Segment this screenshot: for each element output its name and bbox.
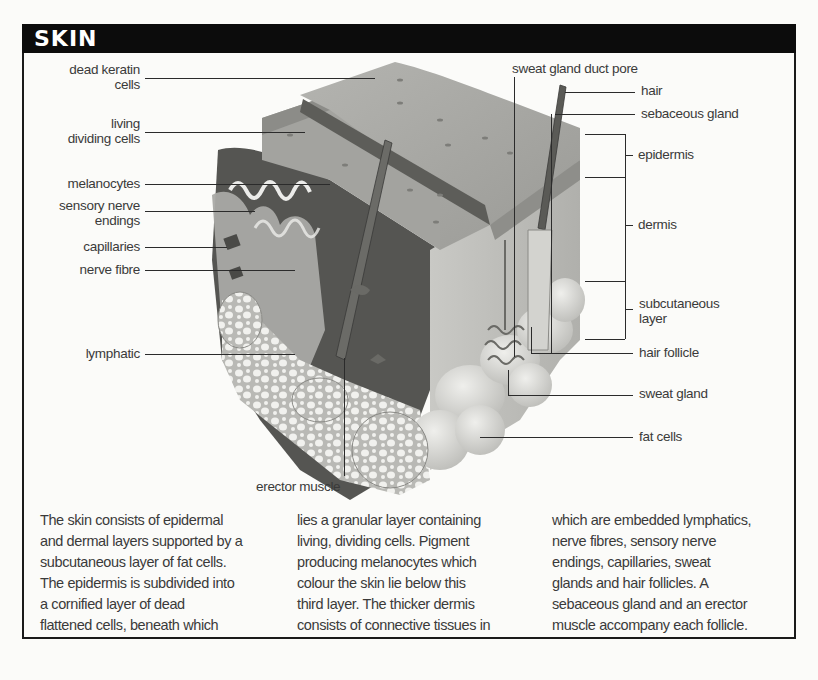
leader-line-sweat-gland-vertical [508,370,509,395]
leader-line-sweat-gland-duct-pore [514,77,515,357]
label-melanocytes: melanocytes [40,176,140,191]
leader-line-sensory-nerve-endings [145,211,255,212]
leader-line-fat-cells [480,437,633,438]
label-sweat-gland-duct-pore: sweat gland duct pore [512,61,638,76]
leader-line-erector-muscle [344,358,345,476]
label-lymphatic: lymphatic [40,346,140,361]
label-capillaries: capillaries [40,239,140,254]
bracket-subcutaneous-bottom [585,339,625,340]
leader-line-melanocytes [145,184,330,185]
label-fat-cells: fat cells [639,429,682,444]
leader-line-sebaceous-gland-vertical [551,114,552,354]
bracket-epidermis-top [585,134,625,135]
bracket-subcutaneous-spine [625,281,626,339]
label-dead-keratin-cells: dead keratin cells [40,62,140,92]
leader-line-hair-follicle-vertical [531,327,532,353]
leader-line-nerve-fibre [145,270,295,271]
leader-line-hair-follicle [531,353,633,354]
label-sensory-nerve-endings: sensory nerve endings [40,198,140,228]
bracket-dermis-tick [625,225,633,226]
label-subcutaneous-layer: subcutaneous layer [639,296,719,326]
leader-line-living-dividing-cells [145,132,305,133]
label-nerve-fibre: nerve fibre [40,262,140,277]
label-sweat-gland: sweat gland [639,386,708,401]
bracket-right-spine [625,134,626,289]
bracket-epidermis-tick [625,155,633,156]
label-dermis: dermis [638,217,677,232]
body-text-column-1: The skin consists of epidermal and derma… [40,510,280,636]
bracket-subcutaneous-tick [625,309,633,310]
leader-line-sebaceous-gland [555,114,635,115]
leader-line-sweat-gland [508,395,633,396]
label-living-dividing-cells: living dividing cells [40,116,140,146]
label-sebaceous-gland: sebaceous gland [641,106,739,121]
body-text-column-3: which are embedded lymphatics, nerve fib… [552,510,792,636]
bracket-dermis-bottom [585,281,625,282]
leader-line-capillaries [145,247,227,248]
bracket-epidermis-bottom [585,177,625,178]
label-epidermis: epidermis [638,147,694,162]
leader-line-dead-keratin-cells [145,78,375,79]
label-hair-follicle: hair follicle [639,345,699,360]
leader-line-hair [565,92,635,93]
label-hair: hair [641,83,662,98]
body-text-column-2: lies a granular layer containing living,… [297,510,537,636]
label-erector-muscle: erector muscle [256,479,340,494]
leader-line-lymphatic [145,354,295,355]
